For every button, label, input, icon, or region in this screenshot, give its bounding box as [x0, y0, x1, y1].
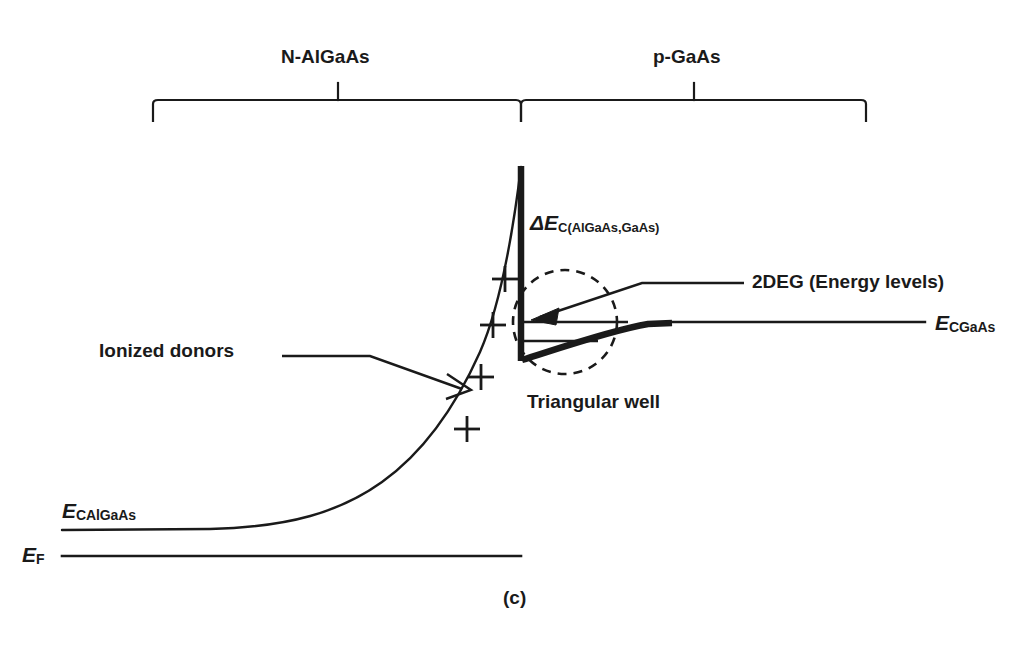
ec-gaas-symbol: E: [935, 311, 949, 334]
fermi-level-subscript: F: [36, 551, 44, 567]
region-label-pgaas: p-GaAs: [653, 47, 721, 66]
ec-algaas-symbol: E: [62, 499, 76, 522]
band-diagram-canvas: [0, 0, 1031, 649]
fermi-level-symbol: E: [22, 543, 36, 566]
two-deg-label: 2DEG (Energy levels): [752, 272, 944, 291]
triangular-well-label: Triangular well: [527, 392, 660, 411]
region-label-algaas: N-AlGaAs: [281, 47, 370, 66]
bracket-right-pgaas: [521, 100, 866, 121]
donor-plus-2: [480, 312, 506, 338]
ionized-donors-leader: [282, 356, 471, 399]
bracket-left-algaas: [153, 100, 521, 121]
two-deg-leader: [531, 283, 744, 325]
band-offset-subscript: C(AlGaAs,GaAs): [558, 220, 659, 235]
donor-plus-1: [492, 266, 518, 292]
figure-caption: (c): [503, 588, 526, 607]
region-brackets: [153, 83, 866, 121]
ionized-donors-label: Ionized donors: [99, 341, 234, 360]
band-offset-label: ΔEC(AlGaAs,GaAs): [530, 212, 659, 233]
ec-gaas-label: ECGaAs: [935, 312, 995, 333]
band-offset-symbol: ΔE: [530, 211, 558, 234]
ionized-donor-markers: [454, 266, 518, 442]
ec-algaas-label: ECAlGaAs: [62, 500, 136, 521]
donor-plus-4: [454, 416, 480, 442]
fermi-level-label: EF: [22, 544, 44, 565]
ec-algaas-subscript: CAlGaAs: [76, 507, 136, 523]
band-diagram-figure: N-AlGaAs p-GaAs ΔEC(AlGaAs,GaAs) 2DEG (E…: [0, 0, 1031, 649]
ec-gaas-subscript: CGaAs: [949, 319, 995, 335]
